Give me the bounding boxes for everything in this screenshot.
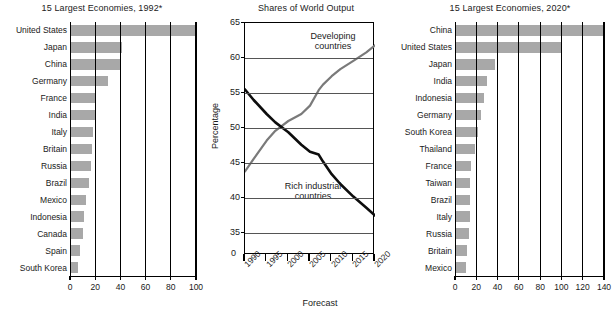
y-axis-line: [70, 22, 71, 276]
y-axis-line: [455, 22, 456, 276]
bar-france: [70, 93, 96, 103]
ytick-mark-35: [241, 232, 244, 233]
bar-category-label: India: [434, 77, 452, 86]
gridline-100: [195, 22, 196, 276]
ytick-label-45: 45: [222, 158, 240, 167]
xtick-mark-60: [145, 276, 146, 280]
gridline-60: [145, 22, 146, 276]
bar-category-label: China: [45, 60, 67, 69]
bar-category-label: Japan: [429, 60, 452, 69]
bar-row: Brazil: [70, 174, 196, 191]
bar-thailand: [455, 144, 475, 154]
bar-germany: [70, 76, 108, 86]
ytick-label-40: 40: [222, 193, 240, 202]
ytick-label-50: 50: [222, 123, 240, 132]
bar-row: Spain: [70, 242, 196, 259]
xtick-label-80: 80: [535, 283, 544, 292]
bar-indonesia: [455, 93, 484, 103]
bar-italy: [455, 211, 470, 221]
bar-row: Indonesia: [70, 208, 196, 225]
annotation-developing-countries: Developingcountries: [291, 31, 375, 51]
ytick-label-65: 65: [222, 18, 240, 27]
xtick-mark-100: [195, 276, 196, 280]
chart-title-right: 15 Largest Economies, 2020*: [408, 3, 612, 13]
bar-row: Germany: [70, 73, 196, 90]
bar-row: Mexico: [70, 191, 196, 208]
bar-row: South Korea: [70, 259, 196, 276]
chart-title-mid: Shares of World Output: [204, 3, 408, 13]
bar-britain: [455, 245, 467, 255]
xtick-label-0: 0: [453, 283, 458, 292]
bar-category-label: Brazil: [431, 196, 452, 205]
xtick-label-120: 120: [576, 283, 590, 292]
xtick-label-100: 100: [189, 283, 203, 292]
bar-mexico: [455, 262, 466, 272]
bar-category-label: France: [426, 162, 452, 171]
xtick-label-20: 20: [90, 283, 99, 292]
bar-category-label: Italy: [51, 128, 67, 137]
xtick-label-20: 20: [472, 283, 481, 292]
xtick-mark-60: [518, 276, 519, 280]
xtick-label-60: 60: [141, 283, 150, 292]
bar-row: United States: [70, 22, 196, 39]
ytick-label-60: 60: [222, 53, 240, 62]
xtick-mark-20: [476, 276, 477, 280]
gridline-100: [561, 22, 562, 276]
bar-category-label: Britain: [43, 145, 67, 154]
gridline-120: [582, 22, 583, 276]
bar-category-label: Italy: [436, 212, 452, 221]
bar-united-states: [455, 42, 561, 52]
bar-row: Britain: [70, 141, 196, 158]
gridline-60: [518, 22, 519, 276]
xtick-mark-100: [561, 276, 562, 280]
bar-britain: [70, 144, 92, 154]
bar-russia: [455, 228, 469, 238]
bar-category-label: Germany: [417, 111, 452, 120]
bar-row: China: [70, 56, 196, 73]
xtick-label-0: 0: [68, 283, 73, 292]
bar-category-label: Canada: [37, 229, 67, 238]
bar-row: Russia: [70, 157, 196, 174]
gridline-20: [95, 22, 96, 276]
panel-economies-1992: 15 Largest Economies, 1992* United State…: [0, 0, 204, 331]
bar-brazil: [70, 178, 89, 188]
ytick-mark-55: [241, 92, 244, 93]
bar-category-label: United States: [16, 26, 67, 35]
xtick-label-100: 100: [554, 283, 568, 292]
gridline-40: [497, 22, 498, 276]
bar-category-label: Germany: [32, 77, 67, 86]
gridline-55: [245, 93, 373, 94]
chart-title-left: 15 Largest Economies, 1992*: [0, 3, 204, 13]
bar-france: [455, 161, 471, 171]
bar-row: France: [70, 90, 196, 107]
bar-category-label: Mexico: [425, 263, 452, 272]
bar-category-label: Russia: [41, 162, 67, 171]
bar-row: Canada: [70, 225, 196, 242]
bar-row: Japan: [70, 39, 196, 56]
plot-area-mid: Developingcountries Rich industrialcount…: [244, 22, 374, 254]
xtick-mark-20: [95, 276, 96, 280]
xtick-mark-80: [540, 276, 541, 280]
bar-rows-left: United StatesJapanChinaGermanyFranceIndi…: [70, 22, 196, 276]
ytick-mark-45: [241, 162, 244, 163]
bar-row: India: [70, 107, 196, 124]
bar-category-label: Spain: [45, 246, 67, 255]
bar-category-label: India: [49, 111, 67, 120]
xtick-mark-120: [582, 276, 583, 280]
plot-area-left: United StatesJapanChinaGermanyFranceIndi…: [70, 22, 196, 276]
xtick-mark-40: [497, 276, 498, 280]
xtick-mark-0: [454, 276, 455, 280]
gridline-40: [245, 198, 373, 199]
xtick-mark-40: [120, 276, 121, 280]
gridline-50: [245, 128, 373, 129]
xtick-mark-0: [69, 276, 70, 280]
gridline-45: [245, 163, 373, 164]
x-axis-line: [70, 276, 196, 277]
y-axis-label-mid: Percentage: [210, 93, 220, 159]
bar-row: Italy: [70, 124, 196, 141]
ytick-label-35: 35: [222, 228, 240, 237]
bar-mexico: [70, 195, 86, 205]
bar-category-label: Mexico: [40, 196, 67, 205]
panel-shares-of-world-output: Shares of World Output Percentage Develo…: [204, 0, 408, 331]
xtick-label-60: 60: [514, 283, 523, 292]
